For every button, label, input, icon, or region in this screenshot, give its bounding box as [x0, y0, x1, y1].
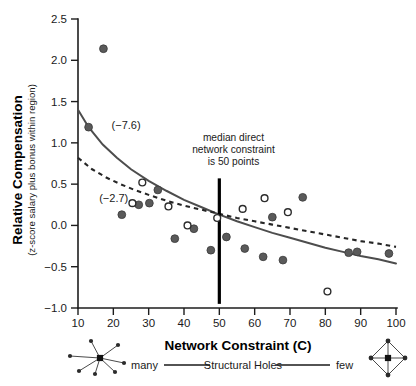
data-point-open — [184, 222, 191, 229]
x-axis-ticks: 102030405060708090100 — [72, 308, 406, 329]
data-point-filled — [207, 246, 215, 254]
data-point-filled — [268, 213, 276, 221]
x-tick-label: 100 — [386, 317, 405, 329]
data-point-filled — [299, 193, 307, 201]
hub-network-icon — [68, 339, 126, 376]
data-point-open — [261, 195, 268, 202]
data-point-filled — [171, 235, 179, 243]
y-axis-ticks: −1.0−0.50.00.51.01.52.02.5 — [44, 13, 78, 314]
data-point-filled — [353, 248, 361, 256]
y-axis-subtitle: (z-score salary plus bonus within region… — [26, 84, 37, 256]
y-tick-label: 1.5 — [51, 96, 67, 108]
data-point-filled — [85, 123, 93, 131]
solid-fit-label: (−7.6) — [112, 119, 141, 131]
x-tick-label: 20 — [107, 317, 120, 329]
x-tick-label: 60 — [248, 317, 261, 329]
scatter-plot-svg: Relative Compensation (z-score salary pl… — [0, 0, 416, 386]
data-point-open — [284, 209, 291, 216]
annotations-group: median directnetwork constraintis 50 poi… — [192, 132, 275, 167]
x-tick-label: 70 — [284, 317, 297, 329]
chart-figure: Relative Compensation (z-score salary pl… — [0, 0, 416, 386]
diamond-network-icon — [369, 339, 408, 378]
data-point-open — [214, 215, 221, 222]
legend-right-label: few — [336, 359, 353, 371]
dashed-fit-label: (−2.7) — [99, 192, 128, 204]
median-constraint-note: median directnetwork constraintis 50 poi… — [192, 132, 275, 167]
data-point-filled — [279, 256, 287, 264]
data-point-filled — [145, 199, 153, 207]
data-point-filled — [259, 253, 267, 261]
y-tick-label: −0.5 — [44, 261, 67, 273]
legend-center-label: Structural Holes — [204, 359, 283, 371]
data-point-open — [239, 206, 246, 213]
data-point-open — [324, 288, 331, 295]
x-tick-label: 40 — [178, 317, 191, 329]
data-point-filled — [100, 45, 108, 53]
x-tick-label: 90 — [354, 317, 367, 329]
legend-left-label: many — [131, 359, 158, 371]
x-tick-label: 30 — [142, 317, 155, 329]
x-axis-title: Network Constraint (C) — [164, 338, 311, 353]
y-axis-title: Relative Compensation — [10, 95, 25, 244]
y-tick-label: 0.5 — [51, 178, 67, 190]
structural-holes-legend: many Structural Holes few — [131, 359, 353, 371]
data-point-open — [165, 203, 172, 210]
y-tick-label: −1.0 — [44, 302, 67, 314]
x-tick-label: 10 — [72, 317, 85, 329]
y-tick-label: 2.5 — [51, 13, 67, 25]
y-tick-label: 1.0 — [51, 137, 67, 149]
data-point-filled — [385, 250, 393, 258]
data-point-filled — [241, 245, 249, 253]
y-axis-label-group: Relative Compensation (z-score salary pl… — [10, 84, 37, 256]
y-tick-label: 2.0 — [51, 54, 67, 66]
y-tick-label: 0.0 — [51, 219, 67, 231]
data-point-filled — [345, 249, 353, 257]
data-point-filled — [223, 233, 231, 241]
data-point-filled — [118, 211, 126, 219]
data-point-filled — [154, 186, 162, 194]
x-tick-label: 50 — [213, 317, 226, 329]
x-tick-label: 80 — [319, 317, 332, 329]
data-point-open — [139, 179, 146, 186]
data-point-open — [129, 200, 136, 207]
